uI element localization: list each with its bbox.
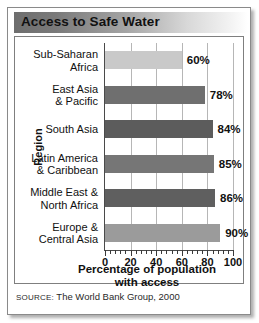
x-axis-label: Percentage of population with access bbox=[55, 263, 239, 289]
chart-figure: Access to Safe Water Region 60%Sub-Sahar… bbox=[0, 0, 259, 323]
x-tick-minor bbox=[228, 250, 229, 254]
category-label-line2: & Pacific bbox=[52, 95, 98, 108]
x-tick-minor bbox=[141, 250, 142, 254]
category-label-line1: Sub-Saharan bbox=[33, 48, 98, 61]
x-tick-minor bbox=[218, 250, 219, 254]
x-tick-minor bbox=[125, 250, 126, 254]
bar bbox=[105, 189, 215, 207]
category-label-line1: Europe & bbox=[39, 220, 98, 233]
bar bbox=[105, 86, 205, 104]
category-label-line2: North Africa bbox=[30, 198, 98, 211]
x-axis-ticks: 020406080100 bbox=[105, 250, 233, 258]
bar-value-label: 86% bbox=[220, 192, 243, 204]
category-label: South Asia bbox=[45, 123, 98, 136]
category-label-line2: & Caribbean bbox=[31, 164, 98, 177]
x-tick-minor bbox=[223, 250, 224, 254]
category-label: Europe &Central Asia bbox=[39, 220, 98, 245]
gridline bbox=[182, 43, 183, 250]
bar bbox=[105, 224, 220, 242]
x-tick-minor bbox=[110, 250, 111, 254]
x-tick-minor bbox=[192, 250, 193, 254]
bar-row: 60%Sub-SaharanAfrica bbox=[105, 51, 233, 69]
x-axis-label-line1: Percentage of population bbox=[55, 263, 239, 276]
bar-value-label: 84% bbox=[218, 123, 241, 135]
bar-row: 84%South Asia bbox=[105, 120, 233, 138]
bar-value-label: 78% bbox=[210, 89, 233, 101]
x-tick-minor bbox=[202, 250, 203, 254]
bar-value-label: 90% bbox=[225, 227, 248, 239]
x-tick-minor bbox=[115, 250, 116, 254]
chart-title-bar: Access to Safe Water bbox=[14, 12, 248, 33]
bar bbox=[105, 155, 214, 173]
bar-row: 86%Middle East &North Africa bbox=[105, 189, 233, 207]
gridline bbox=[131, 43, 132, 250]
bar-row: 85%Latin America& Caribbean bbox=[105, 155, 233, 173]
source-note: SOURCE: The World Bank Group, 2000 bbox=[16, 291, 180, 302]
bar-value-label: 60% bbox=[187, 54, 210, 66]
source-keyword: SOURCE: bbox=[16, 293, 54, 302]
x-tick-minor bbox=[151, 250, 152, 254]
category-label: East Asia& Pacific bbox=[52, 82, 98, 107]
category-label-line1: South Asia bbox=[45, 123, 98, 136]
category-label: Middle East &North Africa bbox=[30, 186, 98, 211]
x-tick-minor bbox=[166, 250, 167, 254]
x-tick-minor bbox=[161, 250, 162, 254]
x-tick-minor bbox=[187, 250, 188, 254]
x-tick-minor bbox=[197, 250, 198, 254]
source-text: The World Bank Group, 2000 bbox=[56, 291, 179, 302]
gridline bbox=[207, 43, 208, 250]
category-label-line1: East Asia bbox=[52, 82, 98, 95]
x-tick-minor bbox=[136, 250, 137, 254]
bar-row: 78%East Asia& Pacific bbox=[105, 86, 233, 104]
plot-area: 60%Sub-SaharanAfrica78%East Asia& Pacifi… bbox=[105, 43, 233, 250]
category-label: Latin America& Caribbean bbox=[31, 151, 98, 176]
bar-value-label: 85% bbox=[219, 158, 242, 170]
chart-title: Access to Safe Water bbox=[21, 14, 160, 29]
bar bbox=[105, 51, 182, 69]
category-label: Sub-SaharanAfrica bbox=[33, 48, 98, 73]
x-tick-minor bbox=[177, 250, 178, 254]
plot-frame: Region 60%Sub-SaharanAfrica78%East Asia&… bbox=[14, 36, 244, 284]
x-tick-minor bbox=[172, 250, 173, 254]
gridline bbox=[156, 43, 157, 250]
x-tick-minor bbox=[146, 250, 147, 254]
category-label-line1: Middle East & bbox=[30, 186, 98, 199]
gridline bbox=[233, 43, 234, 250]
x-axis-label-line2: with access bbox=[55, 276, 239, 289]
x-tick-minor bbox=[120, 250, 121, 254]
x-tick-minor bbox=[213, 250, 214, 254]
category-label-line2: Africa bbox=[33, 60, 98, 73]
bar bbox=[105, 120, 213, 138]
category-label-line2: Central Asia bbox=[39, 233, 98, 246]
y-axis-line bbox=[104, 43, 105, 250]
bar-row: 90%Europe &Central Asia bbox=[105, 224, 233, 242]
category-label-line1: Latin America bbox=[31, 151, 98, 164]
